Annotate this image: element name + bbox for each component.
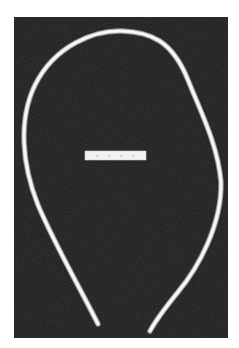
- photograph: [14, 17, 228, 338]
- curved-tube-illustration: [14, 17, 228, 338]
- image-caption: Curved tube with scale bar: [0, 0, 1, 1]
- scale-bar: [85, 151, 146, 160]
- figure-page: Curved tube with scale bar: [0, 0, 239, 348]
- tube-mark: [204, 109, 207, 112]
